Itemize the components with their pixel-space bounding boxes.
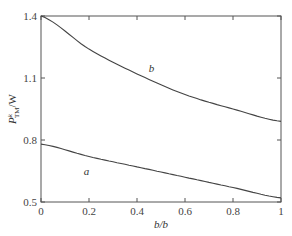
curve-b <box>41 16 281 121</box>
y-tick-label: 1.4 <box>23 10 37 22</box>
x-tick-label: 0.2 <box>82 205 96 217</box>
line-chart: 00.20.40.60.810.50.81.11.4abb/bPkTM/W <box>0 0 292 236</box>
plot-frame <box>41 16 281 202</box>
y-tick-label: 0.8 <box>23 134 37 146</box>
x-tick-label: 1 <box>278 205 284 217</box>
x-tick-label: 0.4 <box>130 205 144 217</box>
curve-a <box>41 144 281 198</box>
x-tick-label: 0 <box>38 205 44 217</box>
plot-area: 00.20.40.60.810.50.81.11.4abb/bPkTM/W <box>6 10 284 230</box>
curve-label-b: b <box>149 62 155 74</box>
x-tick-label: 0.6 <box>178 205 192 217</box>
y-tick-label: 0.5 <box>23 196 37 208</box>
y-tick-label: 1.1 <box>23 72 37 84</box>
y-axis-label: PkTM/W <box>6 93 21 124</box>
x-tick-label: 0.8 <box>226 205 240 217</box>
x-axis-label: b/b <box>154 218 169 230</box>
curve-label-a: a <box>84 165 90 177</box>
